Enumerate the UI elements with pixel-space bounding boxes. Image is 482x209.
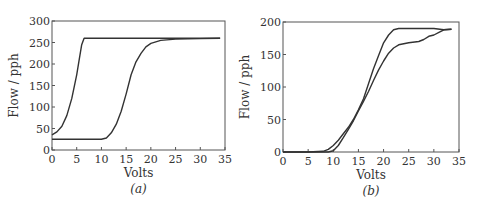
- y-tick-label: 50: [36, 123, 50, 136]
- y-tick-label: 250: [29, 37, 50, 50]
- series-line-curve-2: [283, 29, 452, 152]
- x-tick-label: 25: [169, 153, 183, 166]
- x-tick-label: 35: [452, 155, 466, 168]
- y-tick-label: 50: [267, 114, 281, 127]
- x-tick-label: 20: [377, 155, 391, 168]
- x-axis-label: Volts: [123, 166, 154, 180]
- x-tick-label: 25: [402, 155, 416, 168]
- panel-b: 05101520253035050100150200VoltsFlow / pp…: [238, 16, 466, 198]
- y-axis-label: Flow / pph: [7, 53, 21, 118]
- x-tick-label: 30: [427, 155, 441, 168]
- y-tick-label: 0: [43, 144, 50, 157]
- y-tick-label: 300: [29, 15, 50, 28]
- x-tick-label: 10: [94, 153, 108, 166]
- x-tick-label: 10: [326, 155, 340, 168]
- x-axis-label: Volts: [355, 168, 386, 182]
- series-line-curve-1: [283, 29, 452, 153]
- x-tick-label: 30: [193, 153, 207, 166]
- figure: 05101520253035050100150200250300VoltsFlo…: [0, 0, 482, 209]
- panel-caption: (b): [362, 184, 379, 198]
- x-tick-label: 35: [218, 153, 232, 166]
- y-tick-label: 150: [29, 80, 50, 93]
- y-tick-label: 200: [29, 58, 50, 71]
- panel-a: 05101520253035050100150200250300VoltsFlo…: [7, 15, 232, 196]
- x-tick-label: 5: [305, 155, 312, 168]
- y-tick-label: 100: [29, 101, 50, 114]
- panel-caption: (a): [130, 182, 147, 196]
- series-line-curve-1: [52, 38, 220, 135]
- series-line-curve-2: [52, 38, 220, 139]
- y-tick-label: 150: [260, 49, 281, 62]
- y-tick-label: 0: [274, 146, 281, 159]
- x-tick-label: 20: [144, 153, 158, 166]
- y-tick-label: 100: [260, 81, 281, 94]
- y-axis-label: Flow / pph: [238, 55, 252, 120]
- x-tick-label: 15: [351, 155, 365, 168]
- plot-frame: [52, 21, 225, 150]
- y-tick-label: 200: [260, 16, 281, 29]
- x-tick-label: 5: [73, 153, 80, 166]
- x-tick-label: 15: [119, 153, 133, 166]
